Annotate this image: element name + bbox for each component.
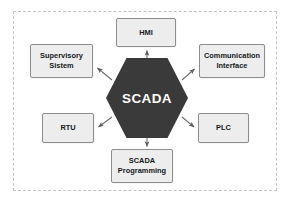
node-rtu-label: RTU	[60, 123, 75, 133]
node-rtu[interactable]: RTU	[42, 113, 94, 143]
scada-hub-hexagon	[106, 58, 188, 138]
node-plc-label: PLC	[216, 123, 231, 133]
node-hmi-label: HMI	[139, 28, 153, 38]
node-scada-programming[interactable]: SCADA Programming	[111, 149, 173, 183]
node-communication-interface[interactable]: Communication Interface	[199, 44, 265, 78]
node-hmi[interactable]: HMI	[116, 18, 176, 47]
scada-diagram: SCADA HMI Supervisory Sistem Communicati…	[0, 0, 292, 204]
node-communication-interface-label: Communication Interface	[204, 51, 260, 71]
node-supervisory-system-label: Supervisory Sistem	[40, 51, 83, 71]
node-supervisory-system[interactable]: Supervisory Sistem	[30, 44, 93, 78]
node-scada-programming-label: SCADA Programming	[118, 156, 166, 176]
node-plc[interactable]: PLC	[198, 113, 249, 143]
